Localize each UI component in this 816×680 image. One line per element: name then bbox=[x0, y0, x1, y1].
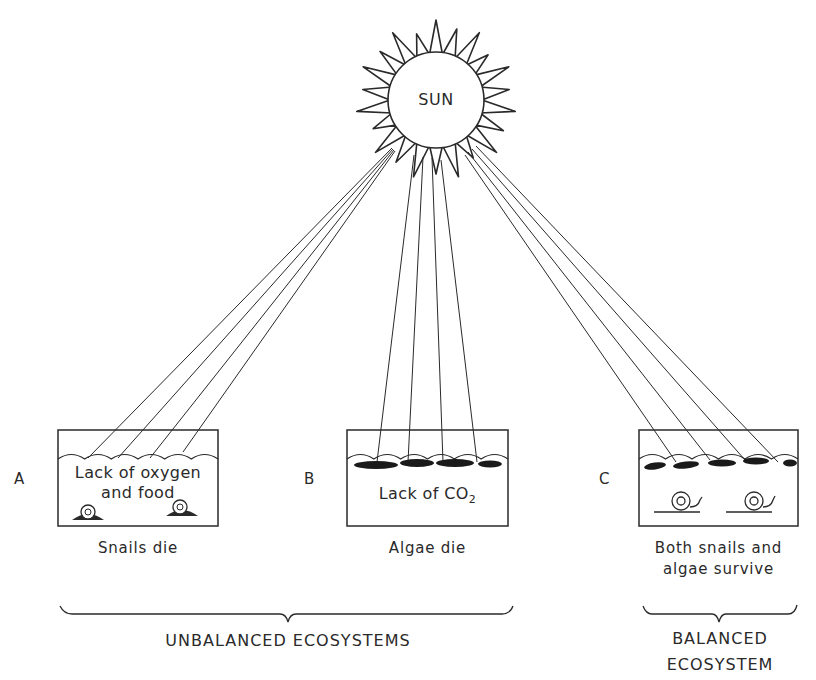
sunlight-rays-c bbox=[465, 146, 778, 462]
algae-icon bbox=[644, 458, 797, 471]
ecosystem-letter-a: A bbox=[14, 470, 25, 488]
sun-label: SUN bbox=[396, 90, 476, 109]
snail-icon bbox=[654, 492, 702, 512]
snail-icon bbox=[726, 492, 775, 512]
outcome-a: Snails die bbox=[58, 538, 218, 559]
condition-b: Lack of CO2 bbox=[347, 484, 508, 510]
condition-a-line1: Lack of oxygen bbox=[58, 463, 218, 483]
condition-a-line2: and food bbox=[58, 483, 218, 503]
condition-b-text: Lack of CO bbox=[379, 484, 469, 503]
group-label-balanced-line2: ECOSYSTEM bbox=[640, 652, 800, 678]
aquarium-b bbox=[347, 430, 508, 526]
group-label-balanced: BALANCED ECOSYSTEM bbox=[640, 626, 800, 678]
group-label-unbalanced: UNBALANCED ECOSYSTEMS bbox=[60, 628, 516, 654]
sunlight-rays-b bbox=[377, 155, 477, 462]
snail-icon bbox=[72, 505, 104, 520]
condition-b-subscript: 2 bbox=[469, 493, 476, 506]
group-label-balanced-line1: BALANCED bbox=[640, 626, 800, 652]
aquarium-c bbox=[639, 430, 798, 526]
brace-balanced bbox=[643, 605, 797, 622]
algae-icon bbox=[354, 459, 502, 469]
brace-unbalanced bbox=[60, 606, 513, 622]
outcome-c-line1: Both snails and bbox=[629, 538, 808, 559]
condition-a: Lack of oxygen and food bbox=[58, 463, 218, 503]
outcome-b: Algae die bbox=[347, 538, 508, 559]
ecosystem-letter-c: C bbox=[599, 470, 610, 488]
sunlight-rays-a bbox=[88, 148, 395, 458]
outcome-c-line2: algae survive bbox=[629, 559, 808, 580]
outcome-c: Both snails and algae survive bbox=[629, 538, 808, 580]
ecosystem-letter-b: B bbox=[304, 470, 315, 488]
